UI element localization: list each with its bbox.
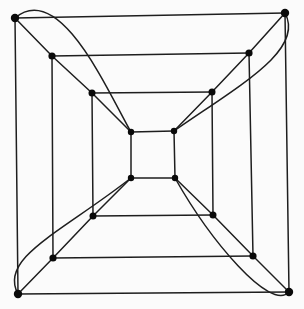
graph-edge — [131, 131, 174, 132]
graph-edge — [174, 131, 175, 178]
graph-edge — [52, 56, 92, 93]
graph-node — [285, 288, 293, 296]
graph-edge — [53, 216, 93, 258]
graph-edge — [93, 178, 131, 216]
graph-node — [171, 128, 177, 134]
graph-node — [249, 252, 256, 259]
graph-edge — [52, 53, 249, 56]
graph-edge — [18, 258, 53, 294]
graph-edge — [15, 18, 18, 294]
graph-edge — [15, 13, 285, 18]
graph-node — [172, 175, 178, 181]
graph-node — [245, 49, 252, 56]
graph-node — [48, 52, 55, 59]
graph-node — [14, 290, 22, 298]
graph-edge — [285, 13, 289, 292]
graph-node — [49, 254, 56, 261]
graph-edge — [18, 292, 289, 294]
graph-edge — [52, 56, 53, 258]
graph-edge — [249, 53, 253, 256]
graph-edge — [15, 18, 52, 56]
graph-edge — [92, 93, 131, 132]
graph-edge — [93, 215, 213, 216]
graph-node — [11, 14, 19, 22]
graph-edge — [212, 53, 249, 92]
graph-figure — [0, 0, 304, 309]
graph-node — [90, 213, 97, 220]
graph-edge — [92, 93, 93, 216]
graph-edge — [249, 13, 285, 53]
graph-edge — [212, 92, 213, 215]
graph-edge — [213, 215, 253, 256]
graph-edge — [174, 92, 212, 131]
graph-node — [281, 9, 289, 17]
graph-edge — [253, 256, 289, 292]
graph-node — [89, 90, 96, 97]
graph-node — [128, 175, 134, 181]
graph-node — [128, 129, 134, 135]
graph-edge — [53, 256, 253, 258]
graph-canvas — [0, 0, 304, 309]
graph-node — [210, 212, 217, 219]
graph-node — [209, 89, 216, 96]
